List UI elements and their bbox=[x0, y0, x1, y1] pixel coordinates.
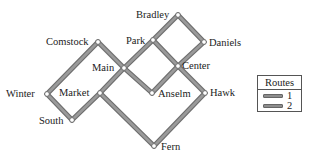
station-label-daniels: Daniels bbox=[209, 37, 241, 48]
legend-item-route-2: 2 bbox=[263, 101, 292, 111]
station-label-main: Main bbox=[92, 62, 115, 73]
station-node-daniels bbox=[202, 40, 207, 45]
station-node-park bbox=[151, 38, 156, 43]
station-node-center bbox=[176, 64, 181, 69]
route-2-line-swatch bbox=[263, 104, 283, 108]
station-nodes bbox=[45, 13, 208, 149]
route-1-line-swatch bbox=[263, 94, 283, 98]
station-node-anselm bbox=[150, 91, 155, 96]
legend-divider bbox=[258, 89, 301, 90]
station-node-winter bbox=[45, 92, 50, 97]
station-node-fern bbox=[152, 144, 157, 149]
legend: Routes 1 2 bbox=[257, 75, 302, 112]
station-node-main bbox=[122, 66, 127, 71]
edge-fern-hawk bbox=[154, 93, 205, 146]
legend-title: Routes bbox=[258, 77, 301, 88]
station-node-market bbox=[98, 91, 103, 96]
station-node-south bbox=[70, 118, 75, 123]
station-label-bradley: Bradley bbox=[136, 9, 170, 20]
station-label-south: South bbox=[39, 115, 64, 126]
station-labels: BradleyParkDanielsComstockMainCenterWint… bbox=[6, 9, 241, 152]
edge-market-fern bbox=[100, 93, 154, 146]
station-node-bradley bbox=[176, 13, 181, 18]
edge-park-center bbox=[153, 40, 178, 66]
station-label-winter: Winter bbox=[6, 88, 35, 99]
station-label-fern: Fern bbox=[161, 141, 181, 152]
station-label-anselm: Anselm bbox=[158, 88, 191, 99]
edge-main-anselm bbox=[124, 68, 152, 93]
station-label-market: Market bbox=[59, 87, 89, 98]
station-node-comstock bbox=[96, 40, 101, 45]
edge-bradley-daniels bbox=[178, 15, 204, 42]
station-label-center: Center bbox=[182, 60, 210, 71]
station-label-comstock: Comstock bbox=[46, 36, 89, 47]
station-node-hawk bbox=[203, 91, 208, 96]
legend-label: 2 bbox=[287, 101, 292, 111]
station-label-park: Park bbox=[126, 35, 146, 46]
station-label-hawk: Hawk bbox=[210, 87, 236, 98]
